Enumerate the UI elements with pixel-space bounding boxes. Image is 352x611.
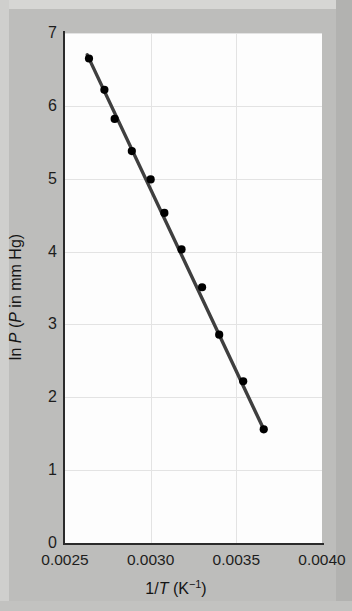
y-axis-title: ln P (P in mm Hg)	[7, 197, 25, 397]
data-point-marker	[215, 331, 223, 339]
fit-line-segment	[87, 55, 263, 429]
data-point-marker	[177, 245, 185, 253]
data-point-marker	[147, 175, 155, 183]
data-point-marker	[111, 115, 119, 123]
data-point-marker	[160, 209, 168, 217]
fit-line	[87, 55, 263, 429]
data-point-marker	[85, 54, 93, 62]
data-point-marker	[198, 283, 206, 291]
data-point-marker	[100, 86, 108, 94]
figure-root: 01234567 0.00250.00300.00350.0040 ln P (…	[0, 0, 352, 611]
data-series-layer	[0, 0, 352, 611]
x-axis-title: 1/T (K−1)	[0, 578, 352, 598]
data-point-marker	[239, 377, 247, 385]
data-point-marker	[128, 147, 136, 155]
data-point-marker	[260, 425, 268, 433]
